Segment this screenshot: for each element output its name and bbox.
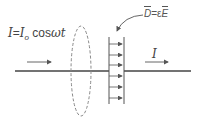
displacement-field-equation: D=εE bbox=[144, 9, 168, 19]
current-equation: I=Io cosωt bbox=[8, 27, 66, 42]
vector-e: E bbox=[162, 8, 169, 19]
epsilon-symbol: ε bbox=[157, 8, 161, 19]
vector-d: D bbox=[144, 8, 151, 19]
displacement-pointer-arrow bbox=[117, 15, 143, 31]
cos-function: cos bbox=[29, 26, 51, 40]
equals-sign: = bbox=[13, 26, 20, 40]
current-label: I bbox=[152, 48, 157, 60]
cos-argument: ωt bbox=[51, 26, 66, 40]
capacitor-diagram bbox=[0, 0, 199, 121]
field-arrows bbox=[109, 44, 122, 98]
